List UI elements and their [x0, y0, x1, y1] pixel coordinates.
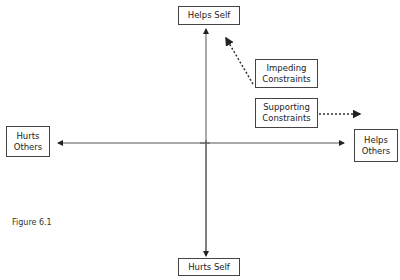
supporting-constraints-box: Supporting Constraints [255, 98, 318, 128]
hurts-self-label: Hurts Self [188, 262, 230, 273]
hurts-others-box: Hurts Others [6, 126, 50, 157]
helps-others-label: Helps Others [361, 135, 391, 157]
helps-others-box: Helps Others [354, 129, 398, 162]
impeding-constraints-box: Impeding Constraints [255, 59, 318, 88]
hurts-self-box: Hurts Self [178, 258, 240, 276]
impeding-line2: Constraints [262, 74, 311, 85]
helps-self-box: Helps Self [178, 6, 240, 25]
helps-self-label: Helps Self [188, 10, 231, 21]
supporting-line2: Constraints [262, 113, 311, 124]
impeding-arrow [226, 38, 253, 84]
hurts-others-label: Hurts Others [13, 131, 43, 153]
diagram-lines [0, 0, 400, 280]
supporting-line1: Supporting [263, 102, 310, 113]
impeding-line1: Impeding [267, 63, 307, 74]
figure-caption: Figure 6.1 [12, 218, 52, 227]
